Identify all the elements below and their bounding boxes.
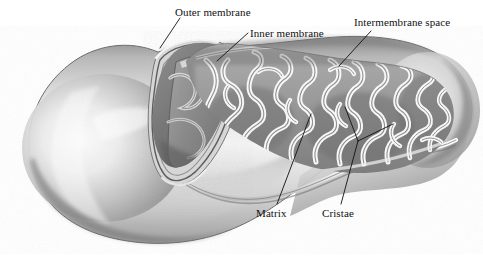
- label-intermembrane-space: Intermembrane space: [354, 16, 450, 28]
- label-outer-membrane: Outer membrane: [175, 6, 251, 18]
- mitochondrion-figure: Outer membrane Inner membrane Intermembr…: [0, 0, 483, 268]
- label-cristae: Cristae: [322, 207, 354, 219]
- label-matrix: Matrix: [256, 207, 287, 219]
- label-inner-membrane: Inner membrane: [250, 27, 324, 39]
- mitochondrion-illustration: [0, 0, 483, 268]
